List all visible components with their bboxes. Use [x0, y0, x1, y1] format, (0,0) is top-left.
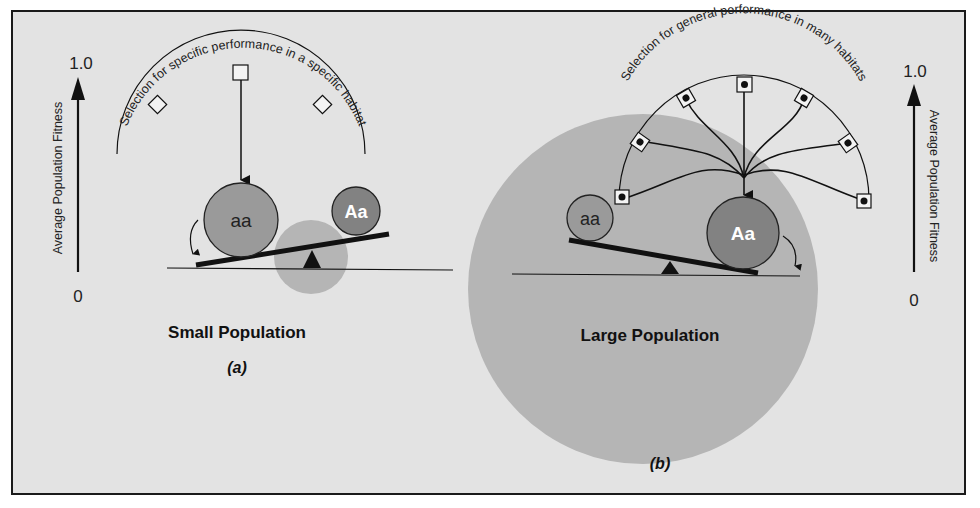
large-population-circle — [468, 114, 818, 464]
axis-bottom-label: 0 — [909, 291, 918, 310]
habitat-square — [615, 190, 629, 204]
habitat-square — [857, 194, 871, 208]
axis-title: Average Population Fitness — [927, 110, 941, 263]
habitat-square — [737, 77, 752, 92]
genotype-aa-label: aa — [230, 210, 252, 231]
axis-bottom-label: 0 — [73, 287, 82, 306]
population-fitness-figure: 1.0 0 Average Population Fitness Selecti… — [0, 0, 980, 508]
axis-top-label: 1.0 — [903, 62, 927, 81]
genotype-aa-label: aa — [580, 209, 601, 229]
panel-label: (b) — [650, 455, 670, 472]
axis-top-label: 1.0 — [69, 54, 93, 73]
panel-label: (a) — [227, 359, 247, 376]
habitat-square-center — [233, 65, 248, 80]
axis-title: Average Population Fitness — [51, 102, 65, 255]
population-label: Small Population — [168, 323, 306, 342]
population-label: Large Population — [581, 326, 720, 345]
genotype-Aa-label: Aa — [731, 223, 756, 244]
genotype-Aa-label: Aa — [344, 202, 368, 222]
